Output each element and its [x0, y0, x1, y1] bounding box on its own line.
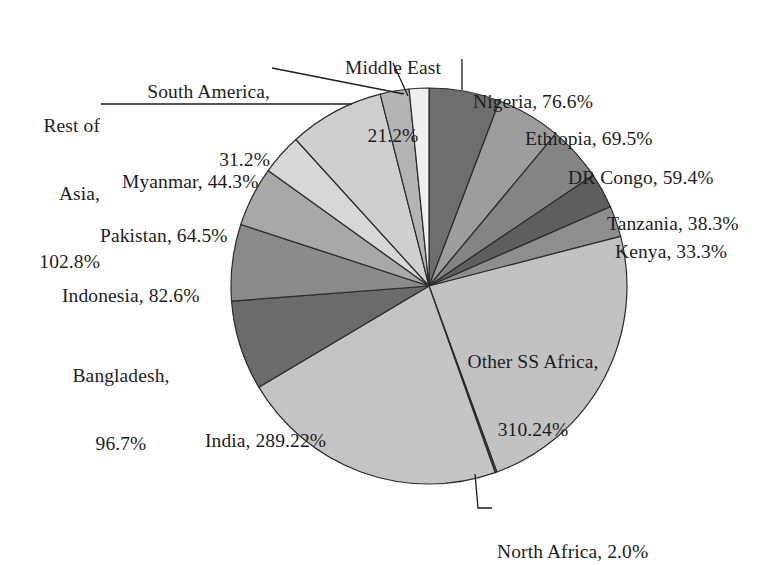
label-other-ss-africa-line1: Other SS Africa,	[438, 351, 628, 374]
label-north-africa: North Africa, 2.0%	[497, 496, 747, 565]
label-bangladesh-line1: Bangladesh,	[26, 365, 216, 388]
label-south-america-line1: South America,	[88, 81, 270, 104]
label-north-africa-line1: North Africa, 2.0%	[497, 541, 747, 564]
label-rest-of-asia-line2: Asia,	[0, 183, 100, 206]
label-other-ss-africa: Other SS Africa, 310.24%	[438, 306, 628, 487]
label-nigeria: Nigeria, 76.6%	[473, 46, 673, 159]
label-india: India, 289.22%	[205, 385, 435, 498]
label-indonesia-line1: Indonesia, 82.6%	[62, 285, 312, 308]
label-other-ss-africa-line2: 310.24%	[438, 419, 628, 442]
label-middle-east-line1: Middle East	[300, 57, 486, 80]
label-rest-of-asia-line1: Rest of	[0, 115, 100, 138]
label-india-line1: India, 289.22%	[205, 430, 435, 453]
label-nigeria-line1: Nigeria, 76.6%	[473, 91, 673, 114]
label-bangladesh-line2: 96.7%	[26, 433, 216, 456]
label-bangladesh: Bangladesh, 96.7%	[26, 320, 216, 501]
